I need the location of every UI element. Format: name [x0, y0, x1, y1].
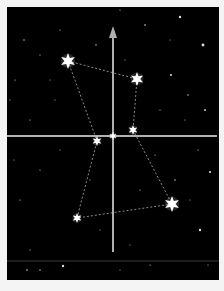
background-star [23, 39, 24, 40]
background-star [29, 249, 30, 250]
background-star [187, 94, 188, 95]
constellation-link [77, 204, 172, 218]
background-star [39, 169, 40, 170]
background-star [95, 44, 96, 45]
background-star [159, 109, 160, 110]
constellation-link [77, 141, 97, 218]
background-star [29, 119, 30, 120]
background-star [100, 230, 101, 231]
background-star [39, 54, 40, 55]
background-star [19, 199, 20, 200]
background-star [149, 264, 150, 265]
background-star [60, 150, 61, 151]
constellation-link [68, 61, 97, 141]
constellation-link [133, 79, 137, 130]
arrow-up-icon [109, 26, 117, 38]
background-star [144, 24, 146, 26]
background-star [26, 269, 28, 271]
background-star [199, 229, 201, 231]
background-star [39, 269, 40, 270]
background-star [14, 79, 15, 80]
background-star [170, 40, 171, 41]
background-star [207, 264, 208, 265]
background-star [190, 200, 191, 201]
background-star [185, 120, 186, 121]
background-star [14, 160, 15, 161]
background-star [50, 80, 51, 81]
background-star [62, 265, 64, 267]
background-star [125, 60, 126, 61]
background-star [130, 245, 131, 246]
background-star [197, 149, 198, 150]
background-star [120, 270, 121, 271]
background-star [59, 29, 60, 30]
background-star [55, 100, 56, 101]
background-star [209, 171, 211, 173]
background-star [204, 109, 206, 111]
background-star [90, 180, 91, 181]
background-star [179, 16, 181, 18]
background-star [139, 189, 140, 190]
background-star [202, 44, 205, 47]
background-star [119, 9, 120, 10]
background-star [170, 74, 172, 76]
background-star [10, 100, 11, 101]
constellation-link [68, 61, 137, 79]
background-star [174, 179, 175, 180]
constellation-link [133, 130, 172, 204]
constellation-diagram [0, 0, 224, 291]
background-star [154, 154, 155, 155]
